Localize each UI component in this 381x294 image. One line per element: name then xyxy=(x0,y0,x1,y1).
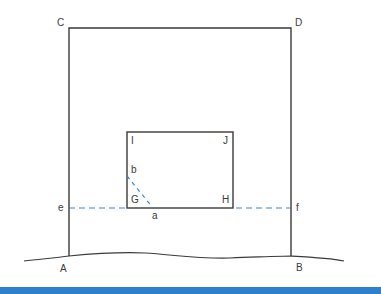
label-j: J xyxy=(223,136,228,146)
label-a-upper: A xyxy=(60,264,67,274)
label-a-lower: a xyxy=(152,211,158,221)
ground-line xyxy=(24,253,344,261)
label-g: G xyxy=(131,195,139,205)
label-h: H xyxy=(222,195,229,205)
label-b-upper: B xyxy=(296,263,303,273)
label-c: C xyxy=(57,18,64,28)
label-f: f xyxy=(296,203,299,213)
inner-rectangle xyxy=(127,132,233,208)
outer-frame xyxy=(69,28,291,256)
label-i: I xyxy=(131,136,134,146)
label-d: D xyxy=(295,18,302,28)
bottom-accent-bar xyxy=(0,287,381,294)
label-b-lower: b xyxy=(131,165,137,175)
diagram-canvas xyxy=(0,0,381,294)
label-e: e xyxy=(58,203,64,213)
